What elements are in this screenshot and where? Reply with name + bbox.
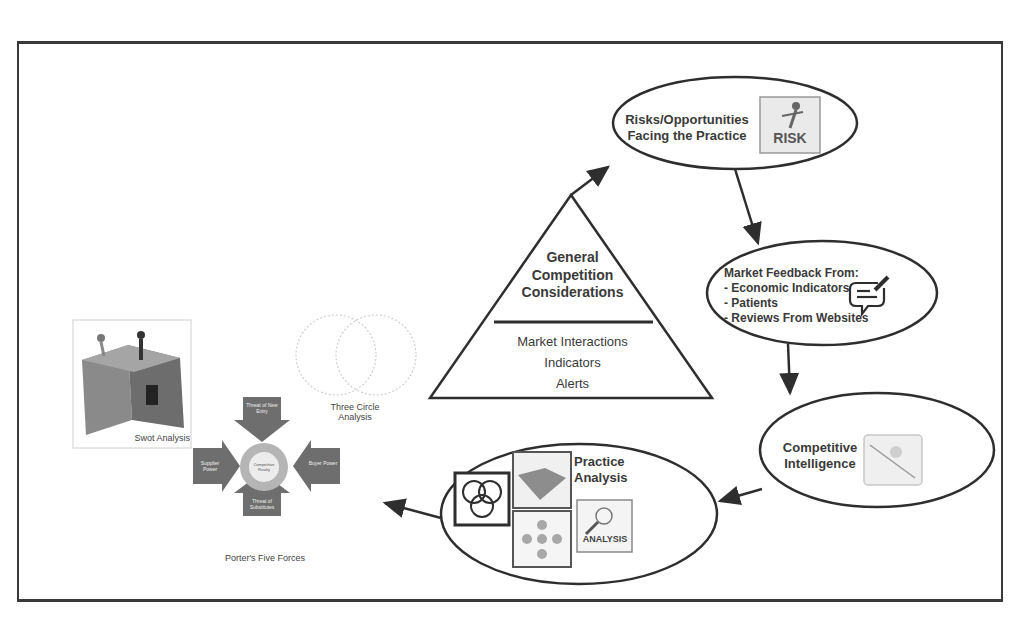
puzzle-figure-icon	[864, 435, 922, 485]
porter-center-label: Competitive Rivalry	[249, 462, 279, 472]
feedback-item: - Reviews From Websites	[724, 311, 884, 326]
arrow-risks-to-feedback	[735, 169, 758, 243]
porter-left-label: Supplier Power	[195, 460, 225, 472]
three-circle-line: Analysis	[315, 412, 395, 422]
feedback-title: Market Feedback From:	[724, 266, 884, 281]
three-circle-line: Three Circle	[315, 402, 395, 412]
risks-line: Risks/Opportunities	[612, 112, 762, 128]
practice-label: Practice Analysis	[574, 454, 644, 487]
arrow-pyramid-to-risks	[571, 167, 608, 195]
porter-caption: Porter's Five Forces	[215, 553, 315, 563]
practice-line: Analysis	[574, 470, 644, 486]
arrow-feedback-to-intelligence	[788, 344, 790, 393]
pyramid-top-line: Considerations	[490, 284, 655, 302]
feedback-item: - Patients	[724, 296, 884, 311]
risk-icon-text: RISK	[762, 130, 818, 148]
swot-caption: Swot Analysis	[120, 433, 190, 443]
pyramid-bottom-line: Market Interactions	[485, 332, 660, 353]
pyramid-top-label: General Competition Considerations	[490, 249, 655, 302]
swot-image	[73, 320, 191, 448]
pyramid-bottom-label: Market Interactions Indicators Alerts	[485, 332, 660, 394]
three-circle-graphic	[296, 315, 416, 395]
arrow-practice-to-tools	[385, 503, 441, 518]
porter-bottom-label: Threat of Substitutes	[244, 498, 280, 510]
porter-right-arrow	[293, 440, 340, 492]
pyramid-bottom-line: Alerts	[485, 374, 660, 395]
pyramid-top-line: Competition	[490, 267, 655, 285]
feedback-label: Market Feedback From: - Economic Indicat…	[724, 266, 884, 326]
risks-label: Risks/Opportunities Facing the Practice	[612, 112, 762, 145]
porter-top-label: Threat of New Entry	[244, 402, 280, 414]
arrow-intelligence-to-practice	[720, 489, 762, 501]
feedback-item: - Economic Indicators	[724, 281, 884, 296]
intelligence-line: Intelligence	[775, 456, 865, 472]
risks-line: Facing the Practice	[612, 128, 762, 144]
analysis-icon-text: ANALYSIS	[578, 534, 632, 545]
three-circle-caption: Three Circle Analysis	[315, 402, 395, 422]
intelligence-line: Competitive	[775, 440, 865, 456]
pyramid-top-line: General	[490, 249, 655, 267]
pyramid-bottom-line: Indicators	[485, 353, 660, 374]
porter-right-label: Buyer Power	[308, 460, 338, 466]
intelligence-label: Competitive Intelligence	[775, 440, 865, 473]
practice-line: Practice	[574, 454, 644, 470]
